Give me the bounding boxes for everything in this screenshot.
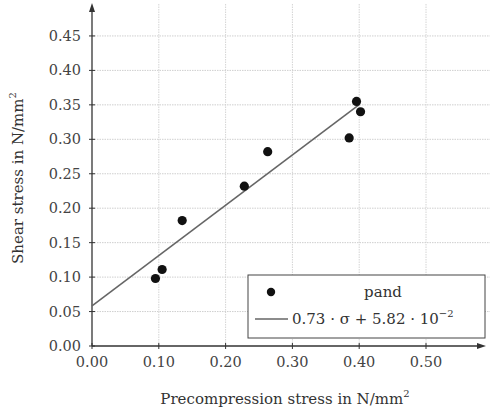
legend-label-pand: pand — [364, 283, 402, 301]
data-point — [263, 147, 272, 156]
legend-marker-pand — [267, 288, 275, 296]
x-tick-label: 0.50 — [410, 354, 442, 370]
x-tick-label: 0.40 — [343, 354, 375, 370]
scatter-chart: 0.000.100.200.300.400.500.000.050.100.15… — [0, 0, 492, 414]
data-point — [158, 265, 167, 274]
data-point — [356, 107, 365, 116]
y-tick-label: 0.30 — [49, 131, 81, 147]
y-tick-label: 0.25 — [49, 166, 81, 182]
y-tick-label: 0.45 — [49, 28, 81, 44]
legend: pand 0.73 · σ + 5.82 · 10−2 — [248, 275, 485, 338]
y-axis-arrow-icon — [89, 3, 95, 12]
y-tick-label: 0.10 — [49, 269, 81, 285]
y-tick-label: 0.40 — [49, 62, 81, 78]
data-point — [352, 97, 361, 106]
y-tick-label: 0.15 — [49, 235, 81, 251]
data-point — [345, 133, 354, 142]
x-tick-label: 0.00 — [76, 354, 108, 370]
data-point — [178, 216, 187, 225]
y-tick-label: 0.35 — [49, 97, 81, 113]
y-tick-label: 0.20 — [49, 200, 81, 216]
y-tick-label: 0.05 — [49, 304, 81, 320]
x-axis-label: Precompression stress in N/mm2 — [160, 388, 409, 408]
y-axis-label: Shear stress in N/mm2 — [7, 92, 27, 264]
data-point — [151, 274, 160, 283]
x-axis-arrow-icon — [477, 343, 486, 349]
x-tick-label: 0.20 — [209, 354, 241, 370]
data-point — [240, 182, 249, 191]
x-tick-label: 0.10 — [143, 354, 175, 370]
x-tick-label: 0.30 — [276, 354, 308, 370]
legend-label-fit: 0.73 · σ + 5.82 · 10−2 — [292, 308, 454, 328]
y-tick-label: 0.00 — [49, 338, 81, 354]
